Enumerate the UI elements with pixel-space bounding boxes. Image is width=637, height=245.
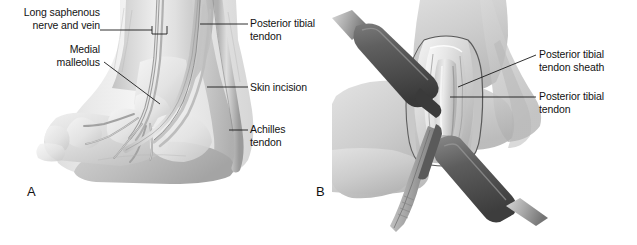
panel-letter-a: A bbox=[27, 184, 36, 199]
label-medial-malleolus: Medial malleolus bbox=[26, 43, 100, 68]
surgical-illustration-figure: Long saphenous nerve and vein Medial mal… bbox=[0, 0, 637, 245]
panel-b-anatomy bbox=[332, 0, 548, 232]
panel-letter-b: B bbox=[316, 184, 325, 199]
label-achilles-tendon: Achilles tendon bbox=[250, 123, 320, 148]
retractor-lower-right bbox=[433, 135, 548, 226]
metatarsal-base bbox=[36, 143, 65, 161]
label-skin-incision: Skin incision bbox=[250, 81, 330, 94]
label-posterior-tibial-tendon-b: Posterior tibial tendon bbox=[539, 90, 631, 115]
label-long-saphenous-nerve-and-vein: Long saphenous nerve and vein bbox=[14, 6, 100, 31]
label-posterior-tibial-tendon-sheath: Posterior tibial tendon sheath bbox=[539, 48, 635, 73]
label-posterior-tibial-tendon-a: Posterior tibial tendon bbox=[250, 17, 326, 42]
